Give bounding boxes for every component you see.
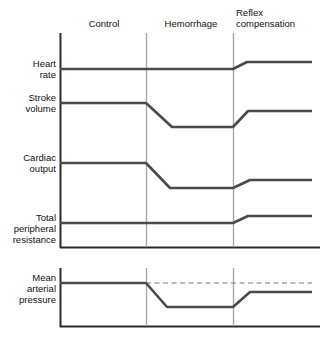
series-label-mean-arterial-pressure: Mean arterial pressure — [0, 272, 56, 305]
phase-label-hemorrhage: Hemorrhage — [148, 18, 234, 29]
trace-cardiac-output — [60, 163, 312, 188]
trace-stroke-volume — [60, 103, 312, 127]
trace-heart-rate — [60, 62, 312, 69]
trace-total-peripheral-resistance — [60, 216, 312, 223]
phase-label-control: Control — [62, 18, 146, 29]
series-label-total-peripheral-resistance: Total peripheral resistance — [0, 212, 56, 245]
series-label-cardiac-output: Cardiac output — [0, 152, 56, 174]
trace-mean-arterial-pressure — [60, 283, 312, 307]
phase-label-reflex-compensation: Reflex compensation — [236, 7, 326, 29]
series-label-stroke-volume: Stroke volume — [0, 92, 56, 114]
series-label-heart-rate: Heart rate — [0, 58, 56, 80]
